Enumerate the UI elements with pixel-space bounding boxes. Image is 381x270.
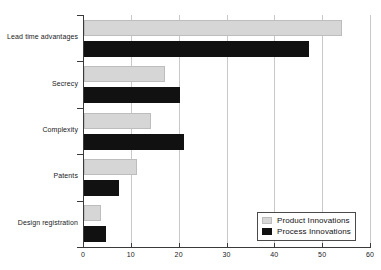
category-label-4: Design registration: [18, 219, 78, 226]
y-axis-line: [83, 15, 84, 247]
x-tick-mark-0: [83, 243, 84, 248]
x-tick-label-0: 0: [81, 251, 85, 258]
bar-product-1: [84, 66, 165, 82]
bar-process-4: [84, 226, 106, 242]
bar-product-3: [84, 159, 137, 175]
legend-swatch-process-icon: [262, 228, 272, 235]
x-tick-mark-50: [322, 243, 323, 248]
category-label-1: Secrecy: [52, 80, 78, 87]
x-tick-label-10: 10: [127, 251, 135, 258]
x-tick-label-30: 30: [222, 251, 230, 258]
bar-product-0: [84, 20, 342, 36]
legend-item-process: Process Innovations: [262, 226, 351, 237]
bar-product-4: [84, 205, 101, 221]
bar-process-1: [84, 87, 180, 103]
x-tick-mark-20: [179, 243, 180, 248]
bar-process-2: [84, 134, 184, 150]
x-tick-label-20: 20: [175, 251, 183, 258]
bar-process-0: [84, 41, 309, 57]
category-label-3: Patents: [54, 172, 78, 179]
bar-chart: 0102030405060 Lead time advantagesSecrec…: [0, 0, 381, 270]
category-label-2: Complexity: [42, 126, 78, 133]
gridline-60: [370, 15, 371, 247]
x-tick-label-60: 60: [366, 251, 374, 258]
x-tick-mark-30: [227, 243, 228, 248]
bar-product-2: [84, 113, 151, 129]
category-label-0: Lead time advantages: [7, 33, 78, 40]
legend-label-product: Product Innovations: [277, 216, 350, 225]
x-tick-mark-40: [274, 243, 275, 248]
x-tick-mark-10: [131, 243, 132, 248]
y-axis-category-labels: Lead time advantagesSecrecyComplexityPat…: [0, 15, 78, 247]
x-tick-mark-60: [370, 243, 371, 248]
bar-process-3: [84, 180, 119, 196]
chart-legend: Product Innovations Process Innovations: [257, 212, 356, 241]
x-tick-label-50: 50: [318, 251, 326, 258]
legend-label-process: Process Innovations: [277, 227, 351, 236]
legend-swatch-product-icon: [262, 217, 272, 224]
x-tick-label-40: 40: [270, 251, 278, 258]
legend-item-product: Product Innovations: [262, 215, 351, 226]
